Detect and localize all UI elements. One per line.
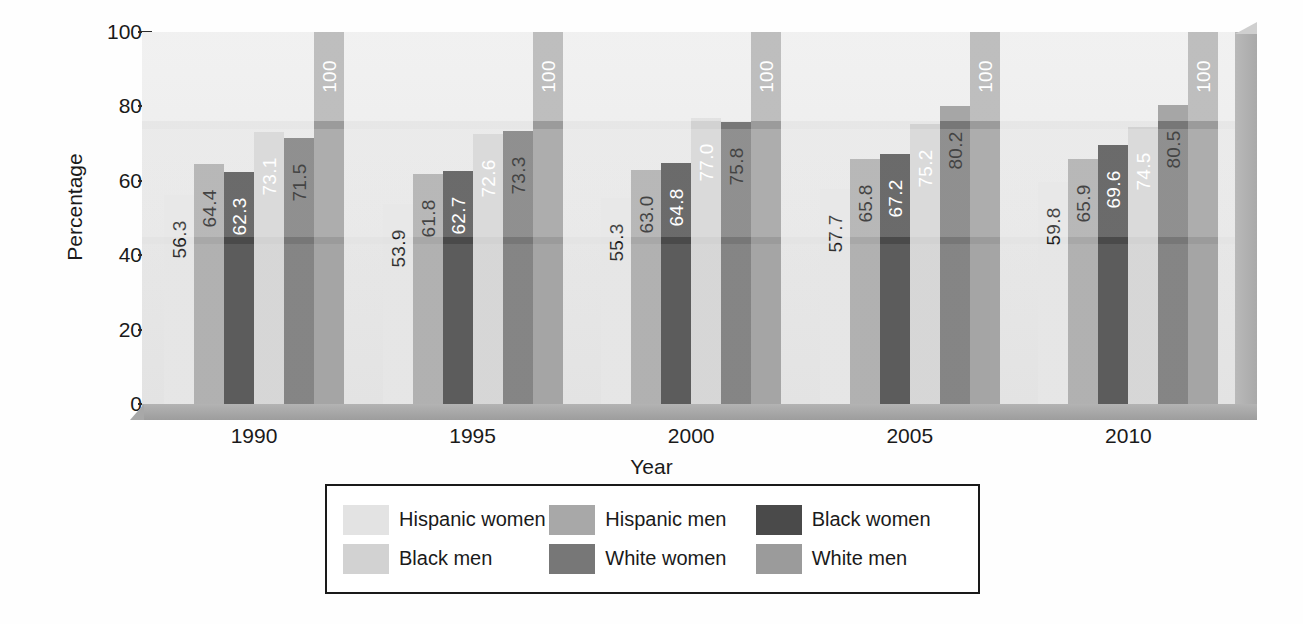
bar-value-label: 74.5	[1134, 152, 1153, 190]
bar[interactable]: 100	[314, 32, 344, 404]
bar-value-label: 100	[538, 60, 557, 93]
legend-swatch	[549, 505, 595, 535]
bar[interactable]: 62.3	[224, 172, 254, 404]
bar-value-label: 73.1	[260, 157, 279, 195]
x-tick-label: 2000	[611, 424, 771, 448]
bar[interactable]: 100	[533, 32, 563, 404]
y-tick-label: 40	[84, 244, 142, 265]
y-axis: 100806040200	[74, 0, 142, 430]
legend-label: Black men	[399, 547, 492, 570]
legend-label: White women	[605, 547, 726, 570]
x-tick-label: 1990	[174, 424, 334, 448]
bar-value-label: 61.8	[418, 200, 437, 238]
bar-value-label: 64.4	[200, 190, 219, 228]
bar-value-label: 100	[320, 60, 339, 93]
legend-item[interactable]: Hispanic women	[343, 505, 549, 535]
bar-value-label: 67.2	[885, 179, 904, 217]
bar[interactable]: 73.1	[254, 132, 284, 404]
y-tick-label: 20	[84, 319, 142, 340]
bar-value-label: 71.5	[290, 163, 309, 201]
bar-value-label: 64.8	[667, 188, 686, 226]
bar-value-label: 53.9	[388, 229, 407, 267]
bar[interactable]: 80.2	[940, 106, 970, 404]
bar-value-label: 72.6	[478, 159, 497, 197]
bar-group: 59.865.969.674.580.5100	[1038, 32, 1218, 404]
legend-grid: Hispanic womenHispanic menBlack womenBla…	[327, 486, 978, 592]
bar-value-label: 73.3	[508, 157, 527, 195]
y-tick-label: 100	[84, 21, 142, 42]
bar-group: 56.364.462.373.171.5100	[164, 32, 344, 404]
legend-label: Black women	[812, 508, 931, 531]
bar[interactable]: 56.3	[164, 195, 194, 404]
bar-value-label: 65.9	[1074, 184, 1093, 222]
bar[interactable]: 67.2	[880, 154, 910, 404]
legend: Hispanic womenHispanic menBlack womenBla…	[325, 484, 980, 594]
x-axis-title: Year	[0, 455, 1303, 479]
y-tick-label: 60	[84, 170, 142, 191]
bar[interactable]: 62.7	[443, 171, 473, 404]
bar[interactable]: 59.8	[1038, 182, 1068, 404]
bar[interactable]: 53.9	[383, 204, 413, 405]
bar-value-label: 77.0	[697, 143, 716, 181]
legend-label: Hispanic women	[399, 508, 546, 531]
bar[interactable]: 63.0	[631, 170, 661, 404]
legend-label: White men	[812, 547, 908, 570]
bar-value-label: 62.3	[230, 198, 249, 236]
bar[interactable]: 75.2	[910, 124, 940, 404]
bar[interactable]: 61.8	[413, 174, 443, 404]
bar-value-label: 56.3	[170, 220, 189, 258]
y-tick-label: 80	[84, 95, 142, 116]
legend-swatch	[549, 544, 595, 574]
bar[interactable]: 80.5	[1158, 105, 1188, 404]
legend-item[interactable]: Black men	[343, 544, 549, 574]
legend-swatch	[343, 544, 389, 574]
bar-value-label: 57.7	[825, 215, 844, 253]
bar-group: 53.961.862.772.673.3100	[383, 32, 563, 404]
x-tick-label: 1995	[393, 424, 553, 448]
bar[interactable]: 77.0	[691, 118, 721, 404]
bar-chart-figure: Percentage 100806040200 56.364.462.373.1…	[0, 0, 1303, 624]
legend-item[interactable]: Hispanic men	[549, 505, 755, 535]
bar[interactable]: 100	[751, 32, 781, 404]
legend-item[interactable]: White women	[549, 544, 755, 574]
bar-value-label: 100	[1194, 60, 1213, 93]
bar[interactable]: 72.6	[473, 134, 503, 404]
bar[interactable]: 55.3	[601, 198, 631, 404]
bar[interactable]: 65.8	[850, 159, 880, 404]
x-tick-label: 2010	[1048, 424, 1208, 448]
bar[interactable]: 64.8	[661, 163, 691, 404]
legend-item[interactable]: Black women	[756, 505, 962, 535]
plot-area: 56.364.462.373.171.510053.961.862.772.67…	[142, 32, 1235, 404]
bar-value-label: 65.8	[855, 185, 874, 223]
bar-value-label: 100	[757, 60, 776, 93]
plot-floor	[142, 404, 1257, 420]
bar-value-label: 80.2	[945, 131, 964, 169]
x-tick-label: 2005	[830, 424, 990, 448]
bar[interactable]: 69.6	[1098, 145, 1128, 404]
bar[interactable]: 64.4	[194, 164, 224, 404]
legend-label: Hispanic men	[605, 508, 726, 531]
bar-value-label: 62.7	[448, 196, 467, 234]
bar[interactable]: 73.3	[503, 131, 533, 404]
bar-value-label: 55.3	[607, 224, 626, 262]
bar[interactable]: 71.5	[284, 138, 314, 404]
bar[interactable]: 57.7	[820, 189, 850, 404]
legend-swatch	[343, 505, 389, 535]
bar-value-label: 59.8	[1044, 207, 1063, 245]
bar-value-label: 100	[975, 60, 994, 93]
y-tick-label: 0	[84, 393, 142, 414]
legend-swatch	[756, 544, 802, 574]
bar[interactable]: 74.5	[1128, 127, 1158, 404]
bar[interactable]: 65.9	[1068, 159, 1098, 404]
bar-value-label: 75.8	[727, 147, 746, 185]
bar[interactable]: 75.8	[721, 122, 751, 404]
bar-group: 55.363.064.877.075.8100	[601, 32, 781, 404]
bar-value-label: 80.5	[1164, 130, 1183, 168]
bar[interactable]: 100	[970, 32, 1000, 404]
bar[interactable]: 100	[1188, 32, 1218, 404]
bar-group: 57.765.867.275.280.2100	[820, 32, 1000, 404]
bar-value-label: 75.2	[915, 150, 934, 188]
legend-swatch	[756, 505, 802, 535]
bar-value-label: 63.0	[637, 195, 656, 233]
legend-item[interactable]: White men	[756, 544, 962, 574]
